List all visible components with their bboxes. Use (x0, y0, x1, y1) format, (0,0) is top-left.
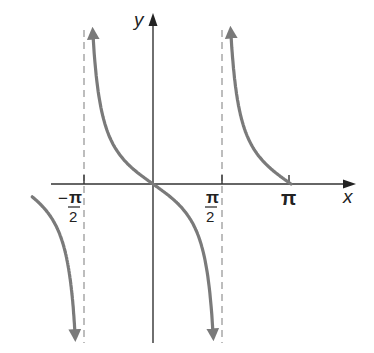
tick-label-neg-half-pi: − π 2 (58, 188, 82, 225)
tick-label-pi: π (281, 187, 296, 209)
y-axis-label: y (132, 9, 145, 30)
tick-label-half-pi: π 2 (205, 188, 219, 225)
curve-branch-right (231, 32, 291, 184)
y-axis-arrow-icon (149, 13, 158, 26)
chart: y x − π 2 π 2 π (0, 0, 374, 353)
denominator: 2 (69, 208, 77, 225)
minus-sign: − (58, 189, 68, 208)
pi-numerator: π (69, 188, 82, 207)
pi-numerator: π (206, 188, 219, 207)
x-axis-label: x (342, 186, 354, 207)
denominator: 2 (206, 208, 214, 225)
